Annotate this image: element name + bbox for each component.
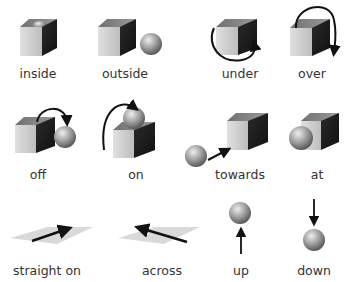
label-across: across (142, 263, 182, 278)
outside-illustration (98, 19, 162, 56)
inside-illustration (20, 19, 57, 56)
up-illustration (229, 202, 251, 254)
label-straight-on: straight on (13, 263, 81, 278)
on-illustration (103, 104, 155, 158)
prepositions-diagram (0, 0, 344, 282)
over-illustration (290, 7, 336, 56)
under-illustration (212, 19, 257, 61)
label-under: under (222, 66, 259, 81)
label-at: at (311, 167, 324, 182)
label-on: on (128, 167, 144, 182)
label-off: off (30, 167, 46, 182)
label-outside: outside (102, 66, 148, 81)
label-over: over (298, 66, 326, 81)
label-up: up (233, 263, 249, 278)
at-illustration (289, 113, 339, 150)
down-illustration (303, 199, 325, 251)
across-illustration (118, 227, 200, 244)
straight-on-illustration (10, 227, 93, 244)
label-down: down (297, 263, 331, 278)
label-inside: inside (19, 66, 56, 81)
off-illustration (15, 109, 76, 153)
towards-illustration (185, 113, 268, 167)
label-towards: towards (215, 167, 265, 182)
